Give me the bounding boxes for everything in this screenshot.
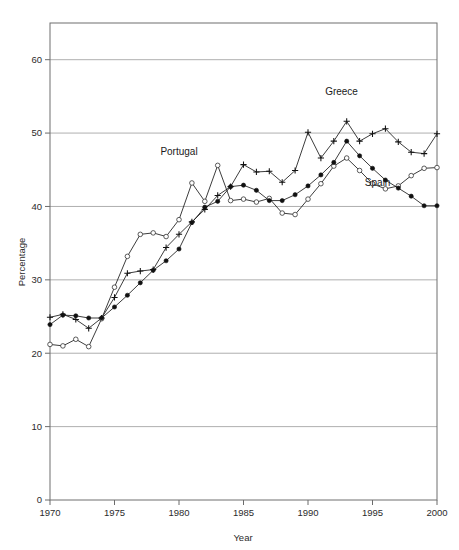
marker-open-circle (280, 211, 285, 216)
marker-plus (357, 138, 363, 144)
marker-filled-circle (138, 281, 142, 285)
y-tick-label: 60 (31, 54, 42, 65)
marker-filled-circle (280, 198, 284, 202)
marker-filled-circle (151, 268, 155, 272)
annotation-spain: Spain (365, 177, 391, 188)
marker-open-circle (254, 200, 259, 205)
x-tick-label: 1980 (168, 507, 189, 518)
marker-open-circle (48, 342, 53, 347)
marker-open-circle (125, 254, 130, 259)
marker-open-circle (344, 156, 349, 161)
plot-frame (50, 23, 437, 500)
marker-open-circle (177, 217, 182, 222)
x-tick-label: 1975 (104, 507, 125, 518)
marker-filled-circle (267, 198, 271, 202)
marker-plus (240, 162, 246, 168)
marker-plus (369, 131, 375, 137)
marker-filled-circle (177, 247, 181, 251)
marker-filled-circle (370, 166, 374, 170)
gridlines-group (50, 60, 437, 427)
marker-plus (344, 118, 350, 124)
marker-open-circle (112, 285, 117, 290)
x-tick-label: 1970 (39, 507, 60, 518)
marker-filled-circle (358, 154, 362, 158)
marker-plus (111, 294, 117, 300)
marker-plus (137, 268, 143, 274)
marker-filled-circle (74, 314, 78, 318)
marker-filled-circle (190, 221, 194, 225)
x-tick-label: 1985 (233, 507, 254, 518)
marker-open-circle (306, 197, 311, 202)
marker-open-circle (61, 344, 66, 349)
marker-filled-circle (422, 204, 426, 208)
series-annotations: GreecePortugalSpain (160, 86, 390, 188)
marker-filled-circle (319, 173, 323, 177)
marker-open-circle (422, 166, 427, 171)
marker-filled-circle (112, 305, 116, 309)
marker-open-circle (435, 165, 440, 170)
marker-filled-circle (332, 160, 336, 164)
marker-filled-circle (306, 184, 310, 188)
y-tick-labels: 0102030405060 (31, 54, 42, 505)
marker-filled-circle (409, 194, 413, 198)
marker-filled-circle (293, 193, 297, 197)
y-tick-label: 10 (31, 421, 42, 432)
marker-open-circle (203, 199, 208, 204)
marker-open-circle (151, 231, 156, 236)
marker-filled-circle (87, 316, 91, 320)
marker-plus (421, 151, 427, 157)
marker-filled-circle (100, 316, 104, 320)
marker-filled-circle (164, 259, 168, 263)
marker-open-circle (215, 163, 220, 168)
marker-filled-circle (229, 185, 233, 189)
y-axis-title: Percentage (16, 238, 27, 287)
x-tick-labels: 1970197519801985199019952000 (39, 507, 447, 518)
chart-figure: 0102030405060 19701975198019851990199520… (0, 0, 459, 550)
marker-filled-circle (435, 204, 439, 208)
marker-filled-circle (345, 139, 349, 143)
marker-open-circle (241, 197, 246, 202)
marker-filled-circle (254, 188, 258, 192)
annotation-greece: Greece (325, 86, 358, 97)
marker-open-circle (74, 337, 79, 342)
line-chart-canvas: 0102030405060 19701975198019851990199520… (0, 0, 459, 550)
series-line-spain (50, 141, 437, 324)
marker-plus (47, 314, 53, 320)
marker-filled-circle (48, 323, 52, 327)
y-tick-label: 20 (31, 348, 42, 359)
marker-open-circle (319, 181, 324, 186)
y-tick-label: 30 (31, 274, 42, 285)
marker-filled-circle (203, 205, 207, 209)
y-tick-label: 0 (37, 494, 42, 505)
series-line-greece (50, 121, 437, 328)
x-tick-label: 1990 (297, 507, 318, 518)
marker-plus (434, 131, 440, 137)
data-series-group (47, 118, 440, 349)
y-tick-label: 40 (31, 201, 42, 212)
marker-open-circle (86, 344, 91, 349)
x-tick-label: 2000 (426, 507, 447, 518)
marker-open-circle (164, 234, 169, 239)
annotation-portugal: Portugal (160, 146, 197, 157)
marker-filled-circle (396, 186, 400, 190)
marker-filled-circle (241, 183, 245, 187)
marker-plus (124, 270, 130, 276)
marker-plus (305, 129, 311, 135)
marker-open-circle (357, 168, 362, 173)
marker-plus (253, 169, 259, 175)
y-tick-label: 50 (31, 127, 42, 138)
marker-open-circle (190, 181, 195, 186)
marker-open-circle (228, 198, 233, 203)
tickmarks-group (45, 60, 437, 505)
marker-filled-circle (216, 199, 220, 203)
marker-filled-circle (125, 293, 129, 297)
x-axis-title: Year (233, 532, 252, 543)
x-tick-label: 1995 (362, 507, 383, 518)
marker-open-circle (138, 232, 143, 237)
marker-open-circle (293, 212, 298, 217)
marker-filled-circle (61, 313, 65, 317)
marker-open-circle (409, 173, 414, 178)
series-greece (47, 118, 440, 331)
